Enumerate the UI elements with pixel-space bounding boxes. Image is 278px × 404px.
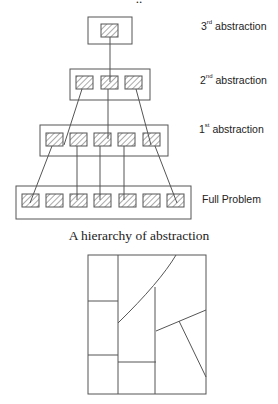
full-problem-group bbox=[16, 186, 191, 219]
full-problem-cell bbox=[119, 194, 136, 207]
level-2-cell bbox=[125, 76, 142, 89]
level-1-cell bbox=[70, 133, 87, 146]
level-3-cell bbox=[101, 24, 118, 37]
label-3rd-abstraction: 3rd abstraction bbox=[201, 20, 266, 32]
full-problem-cell bbox=[70, 194, 87, 207]
diagram-caption: A hierarchy of abstraction bbox=[0, 228, 278, 244]
label-1st-abstraction: 1st abstraction bbox=[199, 123, 264, 135]
level-1-group bbox=[40, 125, 168, 156]
connector-lines bbox=[30, 37, 177, 203]
partition-diagram bbox=[88, 255, 206, 394]
label-full-problem: Full Problem bbox=[202, 193, 261, 205]
level-1-cell bbox=[143, 133, 160, 146]
full-problem-cell bbox=[143, 194, 160, 207]
level-1-cell bbox=[46, 133, 63, 146]
cut-off-heading: .. bbox=[0, 0, 278, 7]
label-2nd-abstraction: 2nd abstraction bbox=[200, 74, 267, 86]
level-2-cell bbox=[76, 76, 93, 89]
level-1-cell bbox=[118, 133, 135, 146]
full-problem-cell bbox=[94, 194, 111, 207]
partition-outer-box bbox=[88, 255, 206, 394]
full-problem-cell bbox=[46, 194, 63, 207]
